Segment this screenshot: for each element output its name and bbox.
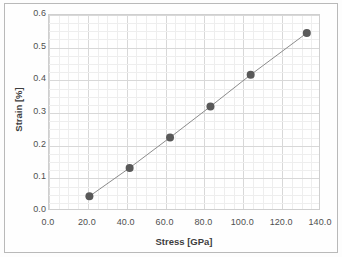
x-tick-label: 120.0 [259, 217, 303, 227]
y-axis-title: Strain [%] [13, 60, 24, 160]
chart-container: 0.00.10.20.30.40.50.6 0.020.040.060.080.… [0, 0, 342, 257]
x-tick-label: 100.0 [220, 217, 264, 227]
data-series-scatter [49, 15, 320, 210]
data-point-marker [85, 192, 93, 200]
x-tick-label: 140.0 [298, 217, 342, 227]
x-tick-label: 80.0 [181, 217, 225, 227]
data-point-marker [247, 71, 255, 79]
data-point-marker [166, 134, 174, 142]
plot-area [48, 14, 320, 210]
y-tick-label: 0.0 [6, 204, 46, 214]
x-tick-label: 0.0 [26, 217, 70, 227]
x-tick-label: 40.0 [104, 217, 148, 227]
y-tick-label: 0.1 [6, 171, 46, 181]
x-tick-label: 20.0 [65, 217, 109, 227]
data-point-marker [303, 29, 311, 37]
y-tick-label: 0.6 [6, 8, 46, 18]
data-point-marker [206, 102, 214, 110]
data-point-marker [126, 164, 134, 172]
series-line [89, 33, 306, 196]
x-axis-title: Stress [GPa] [48, 236, 320, 247]
x-tick-label: 60.0 [143, 217, 187, 227]
y-tick-label: 0.5 [6, 41, 46, 51]
